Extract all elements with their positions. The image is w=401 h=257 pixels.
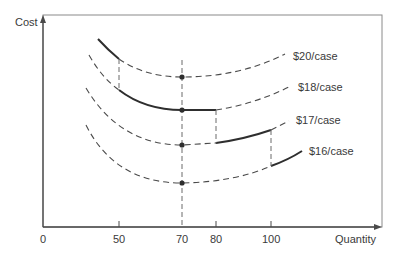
tick-label-100: 100 [262, 233, 280, 245]
label-16-case: $16/case [309, 145, 354, 157]
tick-label-80: 80 [210, 233, 222, 245]
curve-18-dashed-left [89, 55, 119, 90]
y-axis-arrow-icon [40, 15, 46, 23]
min-dot-18 [179, 107, 184, 112]
label-17-case: $17/case [296, 114, 341, 126]
curve-20-dashed [119, 54, 285, 77]
curve-17-solid [216, 130, 271, 143]
cost-chart: $20/case $18/case $17/case $16/case Cost… [0, 0, 401, 257]
min-dot-16 [179, 180, 184, 185]
tick-label-70: 70 [176, 233, 188, 245]
curve-16-dashed [86, 125, 271, 183]
curve-17-dashed [86, 88, 216, 145]
curve-18-solid [119, 90, 216, 110]
curve-16-solid [271, 151, 302, 166]
curve-18-dashed-right [216, 86, 291, 110]
label-20-case: $20/case [293, 50, 338, 62]
min-dot-17 [179, 142, 184, 147]
curve-17-dashed-right [271, 121, 289, 130]
min-dot-20 [179, 74, 184, 79]
curve-20-solid [98, 39, 119, 59]
label-18-case: $18/case [298, 81, 343, 93]
x-axis-label: Quantity [335, 233, 376, 245]
x-axis-arrow-icon [374, 224, 382, 230]
tick-label-0: 0 [40, 233, 46, 245]
y-axis-label: Cost [15, 16, 38, 28]
tick-label-50: 50 [113, 233, 125, 245]
